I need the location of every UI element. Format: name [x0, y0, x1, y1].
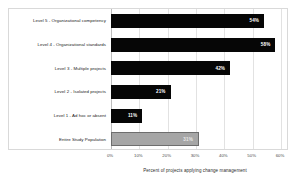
x-axis-title: Percent of projects applying change mana… — [50, 168, 296, 173]
bar-row: Entire Study Population31% — [9, 132, 287, 146]
x-tick-label: 30% — [191, 153, 200, 158]
x-tick-label: 60% — [276, 153, 285, 158]
bar-row: Level 5 - Organizational competency54% — [9, 14, 287, 28]
bar-row: Level 2 - Isolated projects21% — [9, 85, 287, 99]
bar-row: Level 3 - Multiple projects42% — [9, 61, 287, 75]
bar-6: 31% — [111, 132, 199, 146]
bar-2: 58% — [111, 38, 275, 52]
bar-5: 11% — [111, 109, 142, 123]
category-label: Level 3 - Multiple projects — [55, 66, 106, 71]
x-tick-label: 50% — [247, 153, 256, 158]
x-tick-label: 0% — [107, 153, 113, 158]
bar-chart: Level 5 - Organizational competency54%Le… — [0, 0, 296, 193]
x-tick-label: 10% — [134, 153, 143, 158]
bar-row: Level 4 - Organizational standards58% — [9, 38, 287, 52]
bar-value-label: 31% — [183, 137, 193, 142]
bar-row: Level 1 - Ad hoc or absent11% — [9, 109, 287, 123]
bar-value-label: 11% — [128, 113, 137, 118]
category-label: Entire Study Population — [59, 137, 106, 142]
x-axis: 0%10%20%30%40%50%60% — [8, 153, 288, 163]
plot-area: Level 5 - Organizational competency54%Le… — [8, 8, 288, 150]
gridline-40pct — [224, 9, 225, 149]
x-tick-label: 20% — [162, 153, 171, 158]
gridline-0pct — [111, 9, 112, 149]
gridline-10pct — [139, 9, 140, 149]
gridline-60pct — [281, 9, 282, 149]
bar-value-label: 54% — [250, 18, 260, 23]
gridline-50pct — [253, 9, 254, 149]
bar-value-label: 42% — [216, 66, 226, 71]
bar-value-label: 21% — [156, 89, 166, 94]
category-label: Level 5 - Organizational competency — [33, 18, 106, 23]
bar-value-label: 58% — [261, 42, 271, 47]
category-label: Level 4 - Organizational standards — [37, 42, 106, 47]
x-tick-label: 40% — [219, 153, 228, 158]
gridline-20pct — [168, 9, 169, 149]
gridline-30pct — [196, 9, 197, 149]
bar-4: 21% — [111, 85, 171, 99]
category-label: Level 1 - Ad hoc or absent — [54, 113, 106, 118]
category-label: Level 2 - Isolated projects — [55, 89, 106, 94]
bar-1: 54% — [111, 14, 264, 28]
bar-3: 42% — [111, 61, 230, 75]
